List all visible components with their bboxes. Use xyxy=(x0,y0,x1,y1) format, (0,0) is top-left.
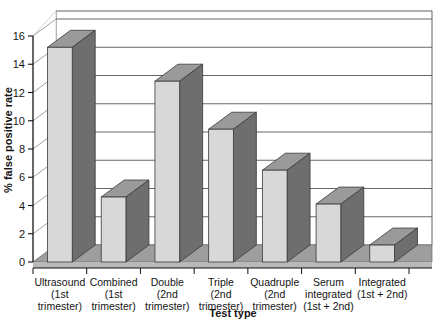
bar-front-face xyxy=(316,204,341,262)
category-label-line: (1st + 2nd) xyxy=(357,288,408,300)
bar xyxy=(101,180,149,262)
y-tick-label: 10 xyxy=(13,115,25,127)
y-tick-label: 16 xyxy=(13,30,25,42)
y-tick-label: 8 xyxy=(19,143,25,155)
category-label-line: (1st + 2nd) xyxy=(303,300,354,312)
bar xyxy=(316,187,364,262)
y-tick-label: 0 xyxy=(19,256,25,268)
category-label-line: Combined xyxy=(90,276,138,288)
y-tick-label: 2 xyxy=(19,228,25,240)
bar xyxy=(48,30,96,262)
bar-front-face xyxy=(370,245,395,262)
category-label-line: (2nd xyxy=(264,288,285,300)
category-label-line: Double xyxy=(151,276,184,288)
category-label-line: (2nd xyxy=(157,288,178,300)
bar-side-face xyxy=(287,153,310,262)
category-label-line: Ultrasound xyxy=(34,276,85,288)
bar-front-face xyxy=(155,81,180,262)
chart-ytick-labels: 0246810121416 xyxy=(13,30,25,268)
bar-chart: 0246810121416 Ultrasound(1sttrimester)Co… xyxy=(0,0,445,322)
y-tick-label: 12 xyxy=(13,87,25,99)
category-label-line: trimester) xyxy=(38,300,82,312)
bar xyxy=(155,64,203,262)
category-label-line: Triple xyxy=(208,276,234,288)
bar-front-face xyxy=(48,47,73,262)
bar xyxy=(209,112,257,262)
x-axis-label: Test type xyxy=(209,307,256,319)
bar-front-face xyxy=(262,170,287,262)
chart-xtick-marks xyxy=(33,268,409,274)
bar-side-face xyxy=(233,112,256,262)
y-tick-label: 4 xyxy=(19,200,25,212)
chart-ytick-marks xyxy=(28,36,33,262)
category-label-line: (1st xyxy=(51,288,69,300)
category-label-line: trimester) xyxy=(253,300,297,312)
y-axis-label: % false positive rate xyxy=(2,87,14,193)
category-label-line: Quadruple xyxy=(250,276,299,288)
category-label-line: trimester) xyxy=(91,300,135,312)
category-label-line: (2nd xyxy=(210,288,231,300)
category-label-line: trimester) xyxy=(145,300,189,312)
chart-floor-front xyxy=(33,262,432,268)
y-tick-label: 6 xyxy=(19,171,25,183)
category-label-line: Integrated xyxy=(358,276,405,288)
bar-side-face xyxy=(180,64,203,262)
bar xyxy=(262,153,310,262)
category-label-line: Serum xyxy=(313,276,344,288)
bar-front-face xyxy=(101,197,126,262)
bar-side-face xyxy=(72,30,95,262)
category-label-line: integrated xyxy=(305,288,352,300)
chart-svg: 0246810121416 Ultrasound(1sttrimester)Co… xyxy=(0,0,445,322)
bar-front-face xyxy=(209,129,234,262)
y-tick-label: 14 xyxy=(13,58,25,70)
category-label-line: (1st xyxy=(105,288,123,300)
